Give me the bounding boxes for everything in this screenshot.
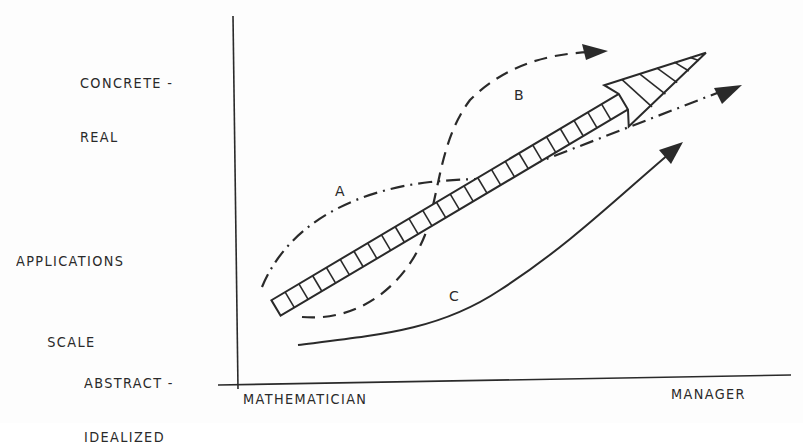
y-top-label-line2: REAL — [80, 128, 173, 146]
hatched-arrow — [264, 32, 718, 329]
curve-c-label: C — [449, 288, 459, 304]
curve-a-label: A — [335, 183, 345, 199]
y-top-label-line1: CONCRETE - — [80, 74, 173, 92]
y-axis-line — [233, 16, 238, 389]
y-top-label: CONCRETE - REAL — [80, 38, 173, 182]
x-left-label: MATHEMATICIAN — [243, 390, 367, 408]
y-axis-title-line1: APPLICATIONS — [16, 248, 124, 275]
x-right-label: MANAGER — [671, 385, 746, 403]
curve-b-arrowhead-icon — [582, 44, 608, 60]
y-bottom-label-line1: ABSTRACT - — [84, 374, 174, 392]
x-axis-line — [218, 375, 791, 385]
curve-b-label: B — [514, 87, 524, 103]
curve-a-arrowhead-icon — [714, 85, 742, 104]
y-bottom-label-line2: IDEALIZED — [84, 428, 174, 446]
y-bottom-label: ABSTRACT - IDEALIZED — [84, 338, 174, 446]
axes — [218, 16, 791, 389]
